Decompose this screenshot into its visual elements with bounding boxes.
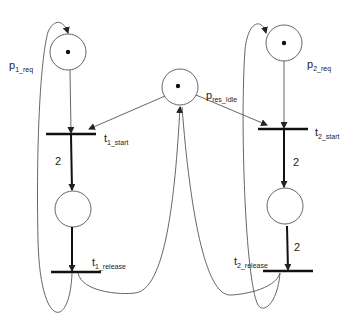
place-p1-mid — [55, 191, 91, 227]
label-t2-release: t2_release — [234, 255, 268, 269]
place-p2-mid — [267, 188, 303, 224]
token-icon — [176, 84, 180, 88]
arc-p2mid-t2release — [287, 226, 288, 270]
arc-p1req-t1start — [70, 70, 71, 133]
arc-t1start-p1mid — [71, 135, 72, 190]
label-t1-release: t1_release — [92, 256, 126, 270]
label-p2-req: p2_req — [307, 58, 331, 72]
label-t1-start: t1_start — [104, 132, 128, 146]
place-p2-req — [266, 25, 302, 61]
label-p-res-idle: pres_Idle — [206, 89, 237, 103]
place-p-res-idle — [162, 69, 198, 105]
weight-p2mid-t2release: 2 — [294, 241, 300, 253]
token-icon — [66, 50, 70, 54]
weight-t2start-p2mid: 2 — [293, 156, 299, 168]
token-icon — [282, 41, 286, 45]
weight-t1start-p1mid: 2 — [55, 155, 61, 167]
label-p1-req: p1_req — [9, 59, 33, 73]
petri-net-canvas — [0, 0, 357, 326]
arc-pres-t1start — [89, 96, 165, 129]
label-t2-start: t2_start — [315, 126, 339, 140]
place-p1-req — [50, 34, 86, 70]
